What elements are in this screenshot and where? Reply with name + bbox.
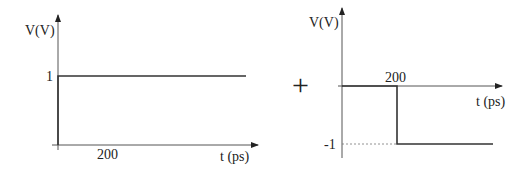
right-xlabel: t (ps): [476, 94, 506, 110]
right-chart: V(V) 200 t (ps) -1: [309, 8, 506, 158]
left-ylabel: V(V): [25, 23, 55, 39]
right-xtick: 200: [385, 70, 406, 85]
plus-operator: +: [292, 68, 309, 101]
left-xlabel: t (ps): [220, 149, 250, 165]
right-ylabel: V(V): [309, 15, 339, 31]
left-ytick: 1: [46, 69, 53, 84]
left-chart: V(V) 1 200 t (ps): [25, 15, 258, 165]
left-xtick: 200: [97, 147, 118, 162]
waveform-diagram: V(V) 1 200 t (ps) + V(V) 200 t (ps) -1: [0, 0, 529, 176]
left-waveform: [58, 76, 246, 145]
right-ytick: -1: [324, 137, 336, 152]
right-waveform: [342, 86, 493, 144]
